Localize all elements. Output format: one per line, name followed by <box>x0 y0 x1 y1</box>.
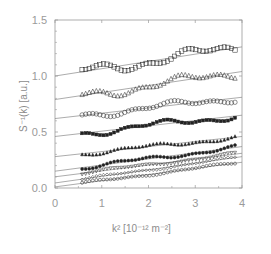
chart: 012340.00.51.01.5 k² [10⁻¹² m⁻²] S⁻¹(k) … <box>0 0 271 254</box>
marker-circle <box>177 156 180 159</box>
marker-circle <box>198 151 201 154</box>
marker-down-triangle <box>169 162 172 165</box>
marker-square <box>198 120 201 123</box>
marker-circle <box>148 155 151 158</box>
marker-circle <box>169 156 172 159</box>
marker-circle <box>233 144 236 147</box>
marker-circle <box>223 162 226 165</box>
marker-square <box>102 134 105 137</box>
marker-square <box>123 126 126 129</box>
marker-circle <box>152 174 155 177</box>
marker-triangle <box>162 142 165 145</box>
marker-square <box>223 120 226 123</box>
marker-triangle <box>190 74 194 78</box>
marker-circle <box>130 159 133 162</box>
marker-square <box>81 132 84 135</box>
fit-line <box>55 97 242 118</box>
marker-square <box>155 121 158 124</box>
x-tick-label: 1 <box>99 197 105 209</box>
marker-square <box>116 129 119 132</box>
marker-circle <box>166 156 169 159</box>
marker-circle <box>95 166 98 169</box>
marker-square <box>91 132 94 135</box>
marker-triangle <box>152 143 155 146</box>
marker-square <box>194 121 197 124</box>
fit-line <box>55 72 242 100</box>
marker-circle <box>95 179 98 182</box>
marker-square <box>230 118 233 121</box>
marker-triangle <box>102 152 105 155</box>
marker-triangle <box>134 146 137 149</box>
marker-square <box>141 125 144 128</box>
marker-square <box>187 122 190 125</box>
marker-square <box>134 125 137 128</box>
marker-square <box>216 119 219 122</box>
marker-circle <box>106 162 109 165</box>
marker-down-triangle <box>226 152 229 155</box>
marker-circle <box>106 178 109 181</box>
marker-triangle <box>119 93 123 97</box>
marker-square <box>148 123 151 126</box>
marker-square <box>169 118 172 121</box>
marker-square <box>212 119 215 122</box>
marker-square <box>145 124 148 127</box>
marker-down-triangle <box>201 157 204 160</box>
marker-circle <box>191 152 194 155</box>
marker-square <box>173 119 176 122</box>
marker-square <box>137 125 140 128</box>
marker-circle <box>226 145 229 148</box>
marker-square <box>191 121 194 124</box>
y-tick-label: 0.5 <box>32 126 47 138</box>
marker-square <box>166 118 169 121</box>
marker-circle <box>155 155 158 158</box>
marker-triangle <box>88 153 91 156</box>
marker-square <box>162 118 165 121</box>
marker-triangle <box>166 142 169 145</box>
marker-triangle <box>123 146 126 149</box>
marker-circle <box>88 167 91 170</box>
x-tick-label: 0 <box>52 197 58 209</box>
marker-circle <box>81 168 84 171</box>
y-tick-label: 1.0 <box>32 70 47 82</box>
marker-down-triangle <box>223 152 226 155</box>
marker-triangle <box>87 90 91 94</box>
marker-triangle <box>137 146 140 149</box>
marker-circle <box>201 165 204 168</box>
marker-triangle <box>184 143 187 146</box>
marker-triangle <box>148 143 151 146</box>
marker-triangle <box>212 140 215 143</box>
x-tick-label: 3 <box>192 197 198 209</box>
marker-triangle <box>155 142 158 145</box>
y-tick-label: 0.0 <box>32 182 47 194</box>
marker-down-triangle <box>173 162 176 165</box>
marker-circle <box>98 165 101 168</box>
marker-circle <box>141 174 144 177</box>
marker-triangle <box>95 153 98 156</box>
marker-circle <box>162 156 165 159</box>
marker-circle <box>109 161 112 164</box>
marker-circle <box>219 148 222 151</box>
marker-circle <box>116 160 119 163</box>
marker-square <box>127 125 130 128</box>
marker-square <box>205 119 208 122</box>
marker-square <box>120 128 123 131</box>
marker-triangle <box>116 147 119 150</box>
marker-circle <box>120 159 123 162</box>
marker-triangle <box>127 146 130 149</box>
marker-square <box>177 120 180 123</box>
marker-circle <box>145 156 148 159</box>
x-axis-label: k² [10⁻¹² m⁻²] <box>112 223 171 234</box>
marker-circle <box>180 155 183 158</box>
marker-square <box>209 119 212 122</box>
marker-circle <box>127 159 130 162</box>
marker-triangle <box>109 150 112 153</box>
marker-square <box>130 125 133 128</box>
marker-square <box>159 119 162 122</box>
marker-circle <box>216 149 219 152</box>
marker-circle <box>123 159 126 162</box>
marker-circle <box>102 163 105 166</box>
marker-triangle <box>112 93 116 97</box>
marker-down-triangle <box>180 160 183 163</box>
y-axis-label: S⁻¹(k) [a.u.] <box>18 80 29 132</box>
marker-triangle <box>91 153 94 156</box>
